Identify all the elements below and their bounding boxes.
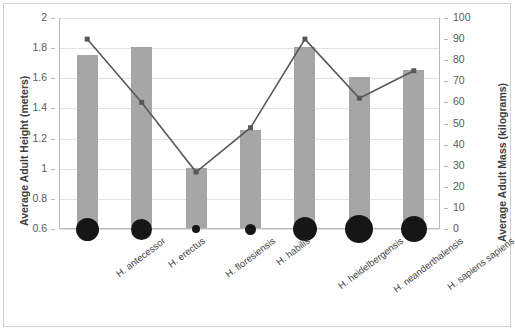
left-tick-label: 0.6 [32, 223, 47, 234]
left-tick-label: 1.6 [32, 72, 47, 83]
left-tick-label: 1.2 [32, 133, 47, 144]
category-label: H. floresiensis [223, 235, 277, 280]
line-marker [85, 37, 90, 42]
left-tick-label: 0.8 [32, 193, 47, 204]
left-tick-mark [51, 108, 55, 109]
right-tick-label: 80 [453, 54, 465, 65]
right-tick-mark [444, 124, 448, 125]
left-tick-mark [51, 169, 55, 170]
line-marker [411, 68, 416, 73]
right-tick-label: 90 [453, 33, 465, 44]
right-axis-title: Average Adult Mass (kilograms) [496, 83, 508, 242]
left-tick-mark [51, 18, 55, 19]
right-axis-tick-labels: 1009080706050403020100 [444, 18, 474, 229]
right-tick-mark [444, 18, 448, 19]
left-tick-mark [51, 199, 55, 200]
left-tick-mark [51, 48, 55, 49]
left-tick-label: 1 [41, 163, 47, 174]
right-tick-mark [444, 208, 448, 209]
right-tick-label: 60 [453, 96, 465, 107]
right-tick-mark [444, 145, 448, 146]
left-axis-tick-labels: 21.81.61.41.210.80.6 [14, 18, 55, 229]
right-tick-label: 0 [453, 223, 459, 234]
left-tick-mark [51, 139, 55, 140]
right-tick-label: 70 [453, 75, 465, 86]
line-marker [139, 100, 144, 105]
left-tick-label: 1.4 [32, 102, 47, 113]
line-marker [248, 125, 253, 130]
left-tick-mark [51, 229, 55, 230]
category-label: H. erectus [165, 235, 206, 270]
right-tick-label: 20 [453, 181, 465, 192]
line-marker [302, 37, 307, 42]
right-tick-mark [444, 187, 448, 188]
line-marker [194, 170, 199, 175]
right-tick-label: 40 [453, 139, 465, 150]
right-tick-mark [444, 102, 448, 103]
chart-frame: Average Adult Height (meters) Average Ad… [3, 3, 511, 327]
right-tick-label: 30 [453, 160, 465, 171]
right-tick-mark [444, 60, 448, 61]
right-tick-mark [444, 229, 448, 230]
left-tick-label: 1.8 [32, 42, 47, 53]
plot-area [59, 18, 440, 229]
chart-screenshot: Average Adult Height (meters) Average Ad… [0, 0, 515, 333]
category-label: H. antecessor [114, 235, 167, 279]
right-tick-label: 100 [453, 12, 471, 23]
line-series [60, 18, 441, 229]
left-tick-mark [51, 78, 55, 79]
right-tick-label: 50 [453, 118, 465, 129]
right-tick-mark [444, 166, 448, 167]
right-tick-label: 10 [453, 202, 465, 213]
left-tick-label: 2 [41, 12, 47, 23]
right-tick-mark [444, 39, 448, 40]
category-label: H. habilis [273, 235, 311, 267]
right-tick-mark [444, 81, 448, 82]
line-path [87, 39, 414, 172]
line-marker [357, 96, 362, 101]
